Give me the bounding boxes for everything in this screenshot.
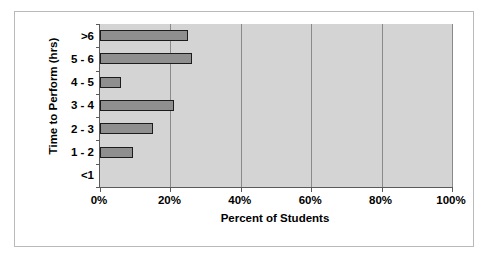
y-axis-tick-labels: >6 5 - 6 4 - 5 3 - 4 2 - 3 1 - 2 <1 — [45, 24, 98, 187]
x-tick-mark — [452, 187, 453, 192]
y-tick-label: 2 - 3 — [45, 117, 98, 140]
bar-4-5 — [100, 77, 121, 88]
plot-area — [99, 24, 452, 188]
x-tick-label: 20% — [158, 194, 181, 206]
y-tick-label: <1 — [45, 164, 98, 187]
x-tick-mark — [100, 187, 101, 192]
bar-6 — [100, 30, 188, 41]
x-tick-label: 0% — [91, 194, 108, 206]
y-tick-label: 4 - 5 — [45, 71, 98, 94]
bar-1-2 — [100, 147, 133, 158]
x-tick-label: 80% — [369, 194, 392, 206]
bar-slot — [100, 140, 452, 163]
x-tick-mark — [170, 187, 171, 192]
bar-slot — [100, 47, 452, 70]
bar-slot — [100, 94, 452, 117]
bar-5-6 — [100, 53, 192, 64]
x-tick-label: 40% — [228, 194, 251, 206]
x-tick-mark — [241, 187, 242, 192]
bar-3-4 — [100, 100, 174, 111]
x-tick-mark — [382, 187, 383, 192]
bar-2-3 — [100, 123, 153, 134]
bar-slot — [100, 24, 452, 47]
y-tick-label: 5 - 6 — [45, 47, 98, 70]
x-tick-mark — [311, 187, 312, 192]
bar-slot — [100, 117, 452, 140]
y-tick-label: 1 - 2 — [45, 140, 98, 163]
x-tick-label: 60% — [299, 194, 322, 206]
y-tick-label: >6 — [45, 24, 98, 47]
bar-slot — [100, 164, 452, 187]
x-axis-title: Percent of Students — [99, 212, 451, 224]
x-axis-tick-labels: 0%20%40%60%80%100% — [99, 194, 451, 210]
bars-layer — [100, 24, 452, 187]
bar-slot — [100, 71, 452, 94]
x-tick-label: 100% — [436, 194, 465, 206]
gridline — [452, 24, 453, 187]
y-tick-label: 3 - 4 — [45, 94, 98, 117]
chart-frame: Time to Perform (hrs) >6 5 - 6 4 - 5 3 -… — [14, 11, 474, 247]
